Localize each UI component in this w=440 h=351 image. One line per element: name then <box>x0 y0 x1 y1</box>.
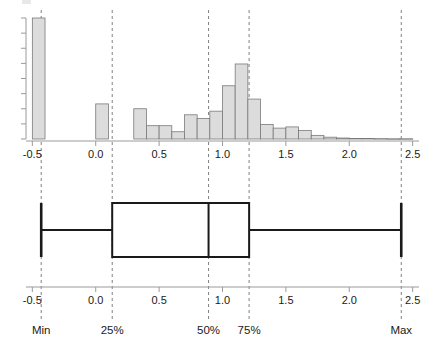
hist-bar <box>235 64 248 139</box>
hist-bar <box>400 139 413 140</box>
hist-bar <box>248 99 261 139</box>
box-iqr <box>112 203 249 257</box>
x-axis-tick-label: 2.5 <box>405 148 420 160</box>
x-axis-tick-label: 0.5 <box>151 294 166 306</box>
hist-bar <box>134 109 147 139</box>
x-axis-tick-label: 0.0 <box>88 294 103 306</box>
hist-bar <box>375 139 388 140</box>
hist-bar <box>197 118 210 139</box>
hist-bar <box>324 137 337 139</box>
quantile-label-q50: 50% <box>197 324 220 336</box>
hist-bar <box>223 86 236 139</box>
quantile-label-max: Max <box>390 324 412 336</box>
quantile-label-q75: 75% <box>238 324 261 336</box>
hist-bar <box>32 18 45 139</box>
hist-bar <box>261 124 274 139</box>
quantile-label-min: Min <box>32 324 51 336</box>
hist-bar <box>184 115 197 139</box>
x-axis-tick-label: 2.0 <box>342 148 357 160</box>
hist-bar <box>387 139 400 140</box>
top-artifact <box>22 0 31 4</box>
x-axis-tick-label: 1.0 <box>215 294 230 306</box>
x-axis-tick-label: 1.5 <box>278 294 293 306</box>
quantile-label-q25: 25% <box>101 324 124 336</box>
hist-bar <box>146 126 159 139</box>
x-axis-tick-label: 0.0 <box>88 148 103 160</box>
hist-bar <box>96 104 109 139</box>
x-axis-tick-label: 0.5 <box>151 148 166 160</box>
hist-bar <box>159 126 172 139</box>
x-axis-tick-label: 2.5 <box>405 294 420 306</box>
hist-bar <box>286 127 299 139</box>
hist-bar <box>299 131 312 139</box>
x-axis-tick-label: 2.0 <box>342 294 357 306</box>
x-axis-tick-label: 1.0 <box>215 148 230 160</box>
hist-bar <box>337 138 350 139</box>
hist-bar <box>311 135 324 139</box>
hist-bar <box>349 138 362 139</box>
hist-bar <box>210 111 223 139</box>
x-axis-tick-label: -0.5 <box>23 294 42 306</box>
x-axis-tick-label: -0.5 <box>23 148 42 160</box>
histogram-boxplot-figure: -0.50.00.51.01.52.02.5 -0.50.00.51.01.52… <box>0 0 440 351</box>
hist-bar <box>362 139 375 140</box>
hist-bar <box>273 128 286 139</box>
x-axis-tick-label: 1.5 <box>278 148 293 160</box>
hist-bar <box>172 132 185 139</box>
